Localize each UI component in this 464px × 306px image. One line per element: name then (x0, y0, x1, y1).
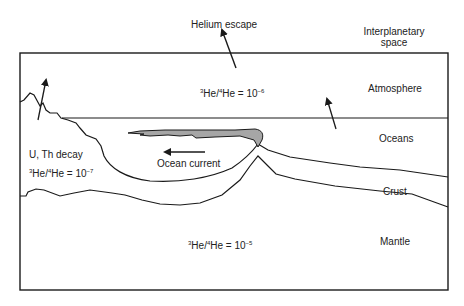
atmosphere-ratio: 3He/4He = 10−6 (200, 88, 264, 99)
interplanetary-space-label: Interplanetary space (360, 26, 428, 48)
atmosphere-label: Atmosphere (368, 83, 422, 94)
helium-escape-label: Helium escape (191, 19, 257, 30)
helium-plume (128, 129, 263, 147)
degassing-arrow-left (38, 80, 46, 120)
ratio-suffix: He = 10 (210, 240, 245, 251)
mantle-ratio: 3He/4He = 10−5 (188, 240, 252, 251)
ratio-exponent: −6 (258, 88, 265, 94)
ratio-prefix: He/ (203, 88, 219, 99)
mantle-label: Mantle (380, 236, 410, 247)
crust-label: Crust (383, 186, 407, 197)
ocean-current-label: Ocean current (157, 158, 220, 169)
crust-ratio: 3He/4He = 10−7 (29, 168, 93, 179)
space-label-line1: Interplanetary (360, 26, 428, 37)
u-th-decay-label: U, Th decay (29, 149, 83, 160)
helium-escape-arrow (222, 30, 236, 68)
degassing-arrow-right (327, 99, 336, 129)
ratio-prefix: He/ (32, 168, 48, 179)
ratio-suffix: He = 10 (51, 168, 86, 179)
crust-bottom-boundary (20, 156, 448, 207)
ratio-exponent: −7 (87, 168, 94, 174)
ratio-exponent: −5 (246, 240, 253, 246)
ratio-suffix: He = 10 (222, 88, 257, 99)
oceans-label: Oceans (379, 133, 413, 144)
ratio-prefix: He/ (191, 240, 207, 251)
space-label-line2: space (360, 37, 428, 48)
